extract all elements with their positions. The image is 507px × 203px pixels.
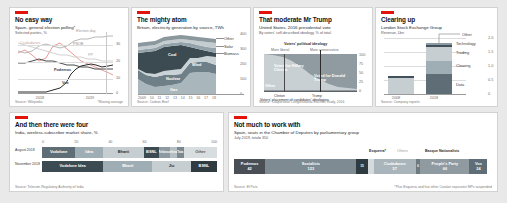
seg-label: Other: [195, 150, 205, 154]
seg-value: 24: [476, 167, 480, 171]
x-tick: 18: [212, 96, 216, 100]
card-subtitle: India, wireless-subscriber market share,…: [15, 130, 223, 135]
bar-row-august[interactable]: Vodafone Idea Bharti BSNL Reliance Telen…: [42, 147, 217, 158]
area-label-wind: Wind: [192, 62, 201, 67]
card-not-much-to-work-with[interactable]: Not much to work with Spain, seats in th…: [228, 112, 498, 192]
bar-2018[interactable]: [426, 44, 452, 94]
card-subtitle-2: July 2019, total= 350: [234, 136, 497, 140]
generation-stacked-area: [138, 34, 216, 94]
x-tick: 80: [177, 140, 181, 144]
card-subtitle: Britain, electricity generation by sourc…: [137, 25, 250, 30]
seg-value: 123: [308, 167, 315, 171]
series-label-vox: Vox: [62, 81, 69, 85]
card-subtitle-2: Selected parties, %: [15, 31, 128, 35]
bar-seg-clearing: [426, 61, 452, 74]
seg-other: Other: [184, 147, 217, 158]
row-label-text: November 2018: [15, 162, 40, 166]
source-note: Source: Wikipedia: [15, 100, 42, 104]
seg-bharti: Bharti: [103, 161, 152, 172]
x-tick: 0: [42, 140, 44, 144]
footnote: *Plus Esquerra and five other Catalan se…: [394, 185, 492, 189]
area-label-other: Other: [265, 83, 275, 88]
row-label-august: August 2018: [15, 148, 41, 152]
plot-area: Voted for Hillary Clinton Voted for Dona…: [264, 54, 357, 92]
series-label-pp: PP: [88, 53, 93, 57]
bar-row-november[interactable]: Vodafone Idea Bharti Jio BSNL: [42, 161, 217, 172]
source-note: Source: Company reports: [381, 100, 420, 104]
bar-2008[interactable]: [388, 76, 414, 94]
clinton-series-name: Voted for Hillary Clinton: [274, 63, 304, 72]
x-tick: 40: [108, 140, 112, 144]
x-axis: [138, 94, 244, 95]
y-tick: 1.0: [488, 64, 493, 68]
source-text: Source: Cooperative Congressional Electi…: [259, 100, 344, 104]
card-title: Clearing up: [381, 16, 497, 24]
bar-label-data: Data: [456, 82, 464, 87]
axis-right-label: More conservative: [310, 48, 339, 52]
area-label-gas: Gas: [170, 87, 177, 92]
axis-left-label: More liberal: [271, 48, 289, 52]
source-note: Source: Cooperative Congressional Electi…: [259, 100, 344, 104]
y-tick: 300: [240, 47, 246, 51]
card-subtitle-2: By voters' self-described ideology, % of…: [259, 31, 372, 35]
y-tick: 50: [359, 71, 363, 75]
seg-telenor: Telenor: [170, 147, 177, 158]
candidate-marker-trump: [320, 50, 321, 92]
seg-label: Idea: [85, 150, 93, 154]
card-subtitle: Spain, general election polling*: [15, 25, 128, 30]
seg-label: Vodafone: [50, 150, 67, 154]
election-day-marker: [106, 32, 107, 94]
x-tick: 60: [143, 140, 147, 144]
chart-gallery: No easy way Spain, general election poll…: [0, 0, 507, 203]
y-tick: 25: [359, 80, 363, 84]
annotation-esquerra: Esquerra*: [369, 149, 386, 153]
seg-value: 57: [393, 167, 397, 171]
leader-biomass: [216, 53, 224, 54]
accent-tab: [137, 11, 150, 14]
card-title: Not much to work with: [234, 121, 497, 129]
x-tick: 15: [189, 96, 193, 100]
plot-area: [384, 38, 466, 94]
candidate-marker-clinton: [284, 54, 285, 92]
bar-seg-trading: [426, 47, 452, 61]
seg-label: Reliance: [159, 150, 170, 154]
y-tick: 30: [116, 42, 120, 46]
seg-idea: Idea: [75, 147, 103, 158]
y-tick: 100: [359, 53, 365, 57]
card-subtitle-2: Revenue, £bn: [381, 31, 497, 35]
seats-bar[interactable]: Podemos42 Socialists123 15 Ciudadanos57 …: [234, 159, 494, 174]
source-note: Source: El País: [234, 185, 257, 189]
y-tick: 0.5: [488, 78, 493, 82]
series-label-psoe: PSOE: [73, 42, 84, 46]
card-title: That moderate Mr Trump: [259, 16, 372, 24]
bar-label-trading: Trading: [456, 50, 469, 55]
seg-reliance: Reliance: [159, 147, 170, 158]
card-subtitle: Spain, seats in the Chamber of Deputies …: [234, 130, 497, 135]
seg-peoples-party: People's Party66: [420, 159, 469, 174]
accent-tab: [381, 11, 394, 14]
card-that-moderate-mr-trump[interactable]: That moderate Mr Trump United States, 20…: [253, 7, 373, 107]
card-clearing-up[interactable]: Clearing up London Stock Exchange Group …: [375, 7, 498, 107]
bar-label-other: Other: [462, 32, 472, 37]
y-tick: 0: [488, 92, 490, 96]
x-tick: 17: [204, 96, 208, 100]
bar-label-clearing: Clearing: [456, 63, 471, 68]
seg-label: Bharti: [118, 150, 129, 154]
y-tick: 1.5: [488, 50, 493, 54]
plot-area: Ciudadanos PSOE PP Podemos Vox Election …: [18, 36, 113, 94]
seg-bsnl: BSNL: [191, 161, 217, 172]
card-and-then-there-were-four[interactable]: And then there were four India, wireless…: [9, 112, 224, 192]
card-the-mighty-atom[interactable]: The mighty atom Britain, electricity gen…: [131, 7, 251, 107]
bar-seg-trading: [388, 78, 414, 94]
accent-tab: [259, 11, 272, 14]
y-tick: 200: [240, 62, 246, 66]
x-tick: 16: [196, 96, 200, 100]
seg-socialists: Socialists123: [265, 159, 356, 174]
seg-value: 66: [443, 167, 447, 171]
seg-podemos: Podemos42: [234, 159, 265, 174]
card-no-easy-way[interactable]: No easy way Spain, general election poll…: [9, 7, 129, 107]
series-label-podemos: Podemos: [54, 68, 71, 72]
x-tick: 14: [181, 96, 185, 100]
seg-bharti: Bharti: [103, 147, 143, 158]
area-label-biomass: Biomass: [224, 51, 239, 56]
